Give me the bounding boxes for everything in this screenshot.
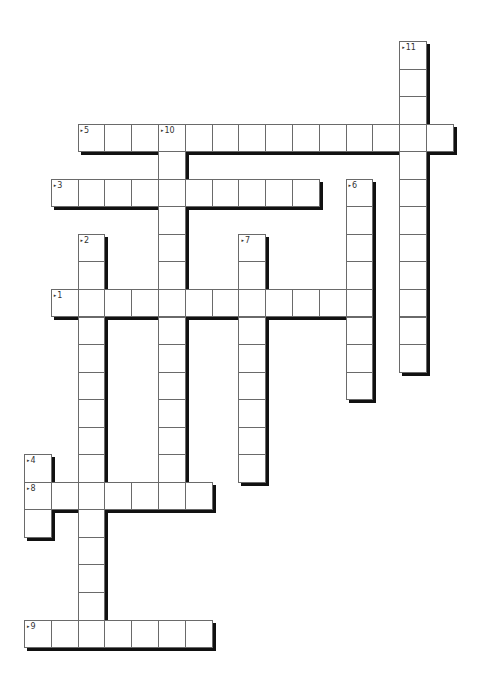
crossword-cell[interactable] <box>104 620 132 649</box>
crossword-cell[interactable] <box>104 482 132 511</box>
crossword-cell[interactable] <box>104 289 132 318</box>
crossword-cell[interactable] <box>346 234 374 263</box>
crossword-cell[interactable] <box>319 124 347 153</box>
crossword-cell[interactable] <box>399 179 427 208</box>
crossword-cell[interactable] <box>158 151 186 180</box>
crossword-cell[interactable] <box>399 96 427 125</box>
crossword-cell[interactable] <box>78 372 106 401</box>
crossword-cell[interactable] <box>51 482 79 511</box>
crossword-cell[interactable] <box>265 179 293 208</box>
crossword-cell[interactable] <box>292 289 320 318</box>
crossword-cell[interactable] <box>265 124 293 153</box>
crossword-cell[interactable] <box>158 289 186 318</box>
crossword-cell[interactable] <box>212 124 240 153</box>
crossword-cell[interactable] <box>158 261 186 290</box>
crossword-cell[interactable] <box>131 482 159 511</box>
crossword-cell[interactable] <box>399 317 427 346</box>
crossword-cell[interactable] <box>346 372 374 401</box>
crossword-cell[interactable] <box>131 124 159 153</box>
crossword-cell[interactable] <box>399 69 427 98</box>
crossword-cell[interactable] <box>426 124 454 153</box>
crossword-cell[interactable] <box>131 289 159 318</box>
crossword-cell[interactable] <box>158 372 186 401</box>
crossword-cell[interactable]: 8 <box>24 482 52 511</box>
crossword-cell[interactable] <box>292 179 320 208</box>
crossword-cell[interactable] <box>78 620 106 649</box>
crossword-cell[interactable] <box>24 509 52 538</box>
crossword-cell[interactable] <box>238 179 266 208</box>
crossword-cell[interactable]: 10 <box>158 124 186 153</box>
crossword-cell[interactable] <box>78 317 106 346</box>
crossword-cell[interactable] <box>399 289 427 318</box>
crossword-cell[interactable] <box>238 344 266 373</box>
crossword-cell[interactable] <box>399 261 427 290</box>
crossword-cell[interactable] <box>238 372 266 401</box>
crossword-cell[interactable] <box>78 482 106 511</box>
crossword-cell[interactable] <box>346 344 374 373</box>
crossword-cell[interactable] <box>78 399 106 428</box>
crossword-cell[interactable] <box>158 206 186 235</box>
crossword-cell[interactable] <box>78 509 106 538</box>
crossword-cell[interactable] <box>238 124 266 153</box>
crossword-cell[interactable] <box>158 234 186 263</box>
crossword-cell[interactable] <box>104 124 132 153</box>
crossword-cell[interactable] <box>185 289 213 318</box>
crossword-cell[interactable] <box>158 179 186 208</box>
crossword-cell[interactable] <box>292 124 320 153</box>
crossword-cell[interactable] <box>399 206 427 235</box>
crossword-cell[interactable] <box>346 317 374 346</box>
crossword-cell[interactable] <box>131 620 159 649</box>
crossword-cell[interactable] <box>238 399 266 428</box>
crossword-cell[interactable] <box>158 454 186 483</box>
crossword-cell[interactable] <box>78 344 106 373</box>
crossword-cell[interactable] <box>158 317 186 346</box>
crossword-cell[interactable] <box>346 261 374 290</box>
crossword-cell[interactable]: 2 <box>78 234 106 263</box>
crossword-cell[interactable]: 1 <box>51 289 79 318</box>
crossword-cell[interactable] <box>158 427 186 456</box>
crossword-cell[interactable] <box>346 289 374 318</box>
crossword-cell[interactable] <box>346 206 374 235</box>
crossword-cell[interactable] <box>78 592 106 621</box>
crossword-cell[interactable]: 9 <box>24 620 52 649</box>
crossword-cell[interactable] <box>158 344 186 373</box>
crossword-cell[interactable] <box>319 289 347 318</box>
crossword-cell[interactable] <box>104 179 132 208</box>
crossword-cell[interactable] <box>158 399 186 428</box>
crossword-cell[interactable] <box>78 261 106 290</box>
crossword-cell[interactable]: 7 <box>238 234 266 263</box>
crossword-cell[interactable] <box>185 482 213 511</box>
crossword-cell[interactable] <box>78 427 106 456</box>
crossword-cell[interactable] <box>131 179 159 208</box>
crossword-cell[interactable] <box>372 124 400 153</box>
crossword-cell[interactable] <box>158 620 186 649</box>
crossword-cell[interactable] <box>399 124 427 153</box>
crossword-cell[interactable] <box>185 620 213 649</box>
crossword-cell[interactable]: 11 <box>399 41 427 70</box>
crossword-cell[interactable] <box>78 179 106 208</box>
crossword-cell[interactable]: 4 <box>24 454 52 483</box>
crossword-cell[interactable]: 5 <box>78 124 106 153</box>
crossword-cell[interactable] <box>185 124 213 153</box>
crossword-cell[interactable] <box>78 289 106 318</box>
crossword-cell[interactable] <box>158 482 186 511</box>
crossword-cell[interactable] <box>78 537 106 566</box>
crossword-cell[interactable] <box>238 289 266 318</box>
crossword-cell[interactable]: 6 <box>346 179 374 208</box>
crossword-cell[interactable] <box>399 151 427 180</box>
crossword-cell[interactable] <box>346 124 374 153</box>
crossword-cell[interactable] <box>78 454 106 483</box>
crossword-cell[interactable] <box>399 234 427 263</box>
crossword-cell[interactable] <box>238 261 266 290</box>
crossword-cell[interactable] <box>185 179 213 208</box>
crossword-cell[interactable] <box>238 427 266 456</box>
crossword-cell[interactable] <box>238 317 266 346</box>
crossword-cell[interactable]: 3 <box>51 179 79 208</box>
crossword-cell[interactable] <box>238 454 266 483</box>
crossword-cell[interactable] <box>212 289 240 318</box>
crossword-cell[interactable] <box>212 179 240 208</box>
crossword-cell[interactable] <box>78 564 106 593</box>
crossword-cell[interactable] <box>399 344 427 373</box>
crossword-cell[interactable] <box>51 620 79 649</box>
crossword-cell[interactable] <box>265 289 293 318</box>
